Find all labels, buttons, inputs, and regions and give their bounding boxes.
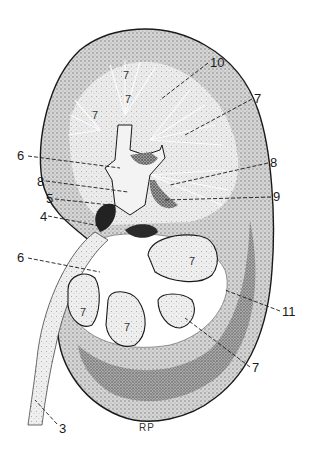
kidney-illustration [0, 0, 310, 452]
callout-label-5: 5 [46, 192, 53, 205]
pyramid-label: 7 [80, 307, 86, 318]
pyramid-label: 7 [189, 256, 195, 267]
pyramid-label: 7 [123, 70, 129, 81]
callout-label-8: 8 [270, 156, 277, 169]
callout-label-6: 6 [17, 149, 24, 162]
artist-signature: RP [139, 422, 155, 433]
callout-label-7: 7 [254, 92, 261, 105]
callout-label-10: 10 [210, 56, 224, 69]
papilla [68, 274, 99, 326]
callout-label-8: 8 [37, 175, 44, 188]
callout-label-11: 11 [282, 305, 296, 318]
callout-label-9: 9 [273, 190, 280, 203]
pyramid-label: 7 [124, 322, 130, 333]
pyramid-label: 7 [125, 94, 131, 105]
pyramid-label: 7 [92, 110, 98, 121]
callout-label-7: 7 [252, 361, 259, 374]
callout-label-3: 3 [59, 422, 66, 435]
callout-label-4: 4 [40, 210, 47, 223]
callout-label-6: 6 [17, 251, 24, 264]
papilla [148, 235, 217, 282]
